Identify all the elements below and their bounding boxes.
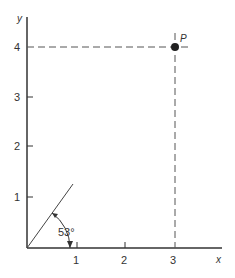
angle-label: 53°: [58, 226, 75, 238]
y-axis-label: y: [16, 13, 23, 24]
y-ticks: [27, 97, 33, 197]
y-tick-label-1: 1: [14, 191, 20, 203]
angled-line: [27, 184, 73, 248]
x-tick-label-2: 2: [121, 254, 127, 266]
x-ticks: [77, 242, 125, 248]
point-p-label: P: [180, 33, 187, 44]
y-tick-label-4: 4: [14, 41, 20, 53]
x-tick-label-3: 3: [170, 254, 176, 266]
y-tick-label-3: 3: [14, 91, 20, 103]
x-tick-label-1: 1: [73, 254, 79, 266]
coordinate-diagram: y x 1 2 3 4 1 2 3 P 53°: [0, 0, 235, 278]
point-p: [171, 43, 179, 51]
x-axis-label: x: [215, 254, 222, 265]
arc-arrowhead-bottom: [67, 241, 73, 248]
y-tick-label-2: 2: [14, 140, 20, 152]
